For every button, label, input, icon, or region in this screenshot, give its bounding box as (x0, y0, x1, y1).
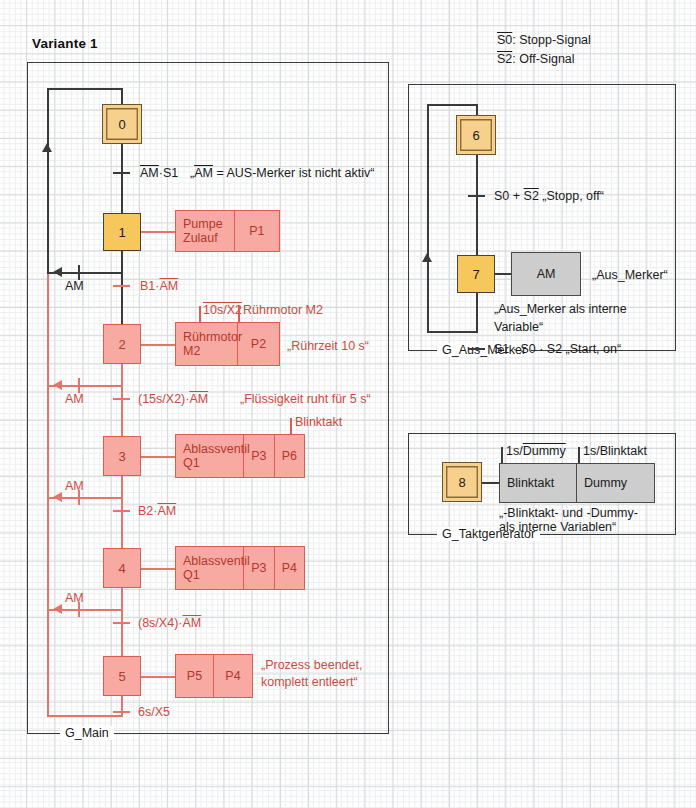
action-box-4[interactable]: Ablassventil Q1 P3 P4 (175, 546, 305, 590)
action-box-2-text-line2: M2 (183, 344, 242, 358)
branch-arrow-am-1 (53, 267, 62, 277)
tg-action-cell-1: Blinktakt (500, 464, 577, 502)
action-box-1-cell-1: Pumpe Zulauf (176, 211, 235, 251)
action-box-3-text-line1: Ablassventil (183, 442, 250, 456)
am-action-comment: „Aus_Merker“ (592, 267, 668, 283)
action-box-3-cell-3: P6 (275, 435, 304, 477)
transition-comment-0-ovl: AM (194, 166, 213, 180)
step-4[interactable]: 4 (103, 548, 141, 588)
action-3-top-label: Blinktakt (295, 414, 342, 430)
transition-comment-2: „Flüssigkeit ruht für 5 s“ (240, 391, 371, 407)
main-loop-bottom-return (47, 715, 123, 717)
step-2[interactable]: 2 (103, 324, 141, 364)
am-transition-cond-6: S0 + S2 „Stopp, off“ (494, 188, 604, 204)
step-8[interactable]: 8 (442, 462, 482, 502)
legend-s2-signal: S2 (497, 52, 512, 66)
action-box-1[interactable]: Pumpe Zulauf P1 (175, 210, 280, 252)
transition-cond-1-ovl: AM (159, 279, 178, 293)
tg-top-label-1-pre: 1s/ (506, 444, 523, 458)
transition-tick-5 (113, 711, 130, 713)
tg-action-box[interactable]: Blinktakt Dummy (499, 463, 655, 503)
transition-tick-4 (113, 622, 130, 624)
action-link-4 (141, 568, 175, 570)
tg-action-link (482, 482, 499, 484)
am-transition-cond-6-post: „Stopp, off“ (539, 189, 604, 203)
action-box-2[interactable]: Rührmotor M2 P2 (175, 322, 280, 366)
action-box-4-cell-2: P3 (244, 547, 275, 589)
transition-comment-0-post: = AUS-Merker ist nicht aktiv“ (213, 166, 375, 180)
action-box-4-text-line1: Ablassventil (183, 554, 250, 568)
action-link-1 (141, 231, 175, 233)
action-link-3 (141, 456, 175, 458)
action-box-5-cell-1: P5 (176, 655, 214, 697)
transition-cond-3-pre: B2· (138, 504, 157, 518)
action-box-3-cell-2: P3 (244, 435, 275, 477)
action-box-2-cell-1: Rührmotor M2 (176, 323, 238, 365)
action-2-top-label-1: 10s/X2 (203, 302, 242, 318)
transition-cond-1-pre: B1· (140, 279, 159, 293)
branch-arrow-am-2 (53, 380, 62, 390)
branch-label-am-4: AM (65, 590, 84, 606)
step-5[interactable]: 5 (103, 656, 141, 696)
tg-action-cell-2: Dummy (577, 464, 654, 502)
branch-label-am-2: AM (65, 391, 84, 407)
branch-arrow-am-4 (53, 604, 62, 614)
transition-tick-1 (113, 285, 130, 287)
step-0-label: 0 (118, 117, 125, 132)
action-box-3[interactable]: Ablassventil Q1 P3 P6 (175, 434, 305, 478)
tg-top-label-1: 1s/Dummy (506, 443, 566, 459)
step-1-label: 1 (118, 225, 125, 240)
am-loop-left-rail (427, 104, 429, 333)
legend-s0-signal: S0 (497, 33, 512, 47)
action-box-1-text-line1: Pumpe (183, 217, 223, 231)
step-5-side-comment-line2: komplett entleert“ (261, 674, 358, 690)
action-box-4-cell-3: P4 (275, 547, 304, 589)
branch-arrow-am-3 (53, 492, 62, 502)
action-box-5-cell-2: P4 (214, 655, 252, 697)
transition-cond-4-ovl: AM (182, 616, 201, 630)
legend-item-s2: S2: Off-Signal (497, 51, 575, 67)
transition-tick-3 (113, 510, 130, 512)
action-box-2-cell-2: P2 (238, 323, 279, 365)
step-6[interactable]: 6 (456, 115, 496, 155)
step-8-label: 8 (458, 475, 465, 490)
am-transition-cond-7: S1 · S0 · S2 „Start, on“ (494, 341, 621, 357)
action-box-5[interactable]: P5 P4 (175, 654, 253, 698)
main-loop-left-rail-dark (47, 88, 49, 273)
legend-s2-desc: : Off-Signal (512, 52, 574, 66)
am-action-box-label: AM (512, 253, 580, 295)
am-note-line2: Variable“ (494, 319, 543, 335)
transition-cond-0-ovl: AM (140, 166, 159, 180)
transition-cond-4: (8s/X4)·AM (138, 615, 201, 631)
seq-line-1-2 (121, 250, 123, 324)
transition-cond-2-ovl: AM (189, 392, 208, 406)
transition-cond-3: B2·AM (138, 503, 176, 519)
am-transition-tick-6 (468, 195, 485, 197)
action-box-3-text-line2: Q1 (183, 456, 250, 470)
legend-s0-desc: : Stopp-Signal (512, 33, 591, 47)
action-link-5 (141, 676, 175, 678)
step-3[interactable]: 3 (103, 436, 141, 476)
am-transition-tick-7 (468, 348, 485, 350)
page-title: Variante 1 (32, 36, 98, 51)
action-box-3-cell-1: Ablassventil Q1 (176, 435, 244, 477)
step-1[interactable]: 1 (103, 213, 141, 251)
am-action-box[interactable]: AM (511, 252, 581, 296)
action-box-4-cell-1: Ablassventil Q1 (176, 547, 244, 589)
am-seq-line-top (476, 104, 478, 115)
tg-note-line2: als interne Variablen“ (499, 519, 616, 535)
step-7[interactable]: 7 (457, 255, 495, 293)
transition-tick-2 (113, 398, 130, 400)
action-2-top-label-2: Rührmotor M2 (243, 302, 323, 318)
am-loop-up-arrowhead (422, 253, 432, 262)
transition-cond-2: (15s/X2)·AM (138, 391, 208, 407)
step-5-label: 5 (118, 669, 125, 684)
am-note-line1: „Aus_Merker als interne (494, 301, 627, 317)
transition-cond-4-pre: (8s/X4)· (138, 616, 182, 630)
transition-cond-0: AM·S1 (140, 165, 178, 181)
am-seq-line-7-end (476, 293, 478, 333)
am-loop-top-segment (427, 104, 477, 106)
step-7-label: 7 (472, 267, 479, 282)
step-0[interactable]: 0 (102, 104, 142, 144)
branch-label-am-1: AM (65, 278, 84, 294)
